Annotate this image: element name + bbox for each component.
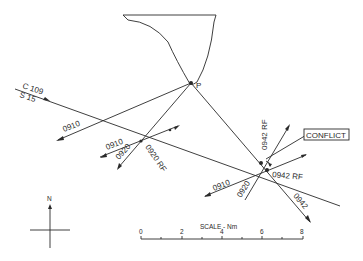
scale-title: SCALE - Nm [200,223,237,230]
main-track-arrow-icon [43,97,50,101]
arrow-0910-lower-right-icon [174,125,180,130]
conflict-diagram: P C 109 S 15 0910 0910 0920 0920 RF 0942… [0,0,363,261]
conflict-angle-arrow-icon [268,163,272,167]
arrow-0942-rf-upper-icon [285,124,290,131]
main-track-line [15,89,340,206]
arrow-0910-right-left-icon [204,192,211,197]
arrow-0942-icon [305,215,311,223]
arrow-0910-icon [56,136,64,141]
aircraft-marker-2 [169,129,172,132]
conflict-label: CONFLICT [306,131,346,140]
scale-tick-6: 6 [260,228,264,235]
arrow-0910-lower-left-icon [100,153,107,158]
point-p-label: P [196,81,201,90]
north-arrow-icon [48,204,52,209]
conflict-marker-2 [265,168,269,172]
coastline [123,15,216,84]
scale-tick-2: 2 [180,228,184,235]
conflict-marker-1 [259,161,263,165]
arrow-0910-right-right-icon [301,154,307,158]
scale-tick-0: 0 [139,228,143,235]
label-0942-rf-lower: 0942 RF [272,170,303,182]
label-0910-right: 0910 [211,178,231,193]
line-p-0942 [191,83,310,222]
scale-tick-4: 4 [220,228,224,235]
label-0920-right: 0920 [235,179,252,199]
scale-tick-8: 8 [300,228,304,235]
label-0920-rf: 0920 RF [143,143,168,173]
north-label: N [47,195,52,202]
label-0942-rf-upper: 0942 RF [260,119,269,150]
aircraft-marker-1 [139,139,142,142]
